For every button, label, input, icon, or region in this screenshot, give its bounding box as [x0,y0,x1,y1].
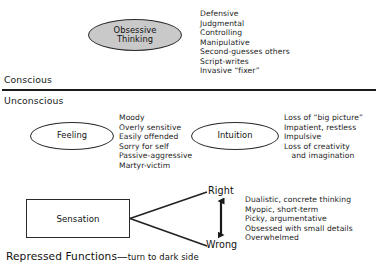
trait-item: Myopic, short-term [245,205,353,215]
footer-caption-dash: — [117,250,128,262]
diagram-canvas: Obsessive Thinking Defensive Judgmental … [0,0,378,271]
trait-list-sensation: Dualistic, concrete thinking Myopic, sho… [245,195,353,243]
footer-caption-sub: turn to dark side [128,252,199,262]
fork-label-right: Right [208,185,234,196]
fork-line-right [130,192,207,219]
trait-item: Overwhelmed [245,233,353,243]
footer-caption: Repressed Functions — turn to dark side [6,250,199,262]
trait-item: Picky, argumentative [245,214,353,224]
trait-item: Dualistic, concrete thinking [245,195,353,205]
fork-label-wrong: Wrong [206,239,237,250]
right-wrong-double-arrow [210,196,234,240]
footer-caption-main: Repressed Functions [6,250,117,262]
trait-item: Obsessed with small details [245,224,353,234]
fork-line-wrong [130,219,207,247]
